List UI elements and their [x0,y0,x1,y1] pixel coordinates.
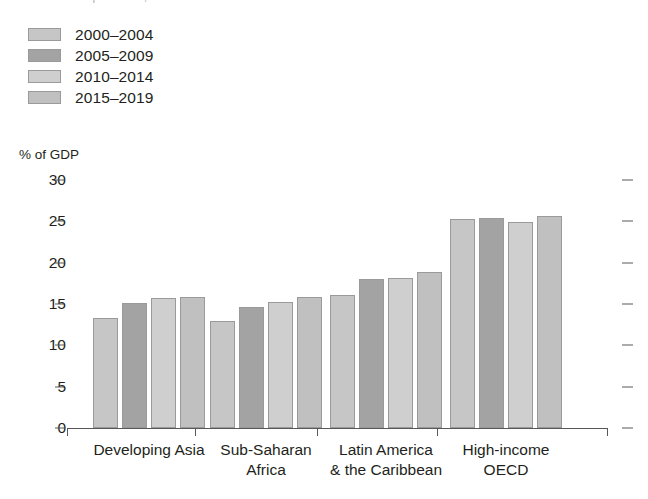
bar [268,302,293,428]
bar [479,218,504,428]
bar [239,307,264,428]
x-axis-group-separator [67,428,68,436]
bar [450,219,475,428]
y-axis-tick-mark-right [622,428,633,429]
bar [388,278,413,428]
bar [210,321,235,428]
bar [417,272,442,428]
x-axis-line [68,428,608,429]
bar [122,303,147,428]
bar [151,298,176,428]
y-axis-tick-mark-right [622,180,633,181]
y-axis-tick-mark-right [622,345,633,346]
y-axis-tick-mark [55,180,64,181]
y-axis-tick-mark [55,304,64,305]
x-axis-group-separator [195,428,196,436]
y-axis-tick-mark-right [622,221,633,222]
bar [537,216,562,428]
y-axis-tick-mark [55,428,64,429]
bar [180,297,205,428]
bar [93,318,118,428]
bar [297,297,322,428]
bar [359,279,384,428]
x-axis-category-label: High-income OECD [416,440,596,480]
plot-area: 051015202530Developing AsiaSub-Saharan A… [0,0,648,499]
x-axis-group-separator [607,428,608,436]
y-axis-tick-mark-right [622,304,633,305]
bar [330,295,355,428]
y-axis-tick-mark [55,221,64,222]
x-axis-group-separator [437,428,438,436]
x-axis-group-separator [317,428,318,436]
y-axis-tick-mark-right [622,386,633,387]
y-axis-tick-mark [55,345,64,346]
bar [508,222,533,428]
y-axis-tick-mark-right [622,262,633,263]
y-axis-tick-mark [55,262,64,263]
y-axis-tick-mark [55,386,64,387]
